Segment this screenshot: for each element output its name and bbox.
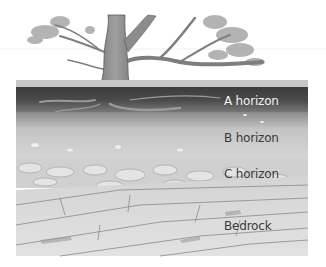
b-horizon-label: B horizon [224, 131, 279, 145]
grass [16, 80, 308, 88]
tree-branches [55, 18, 262, 70]
a-horizon-label: A horizon [224, 94, 279, 108]
bedrock-layer [16, 176, 308, 256]
bedrock-label: Bedrock [224, 219, 271, 233]
c-horizon-label: C horizon [224, 167, 279, 181]
tree-limb [124, 15, 156, 52]
